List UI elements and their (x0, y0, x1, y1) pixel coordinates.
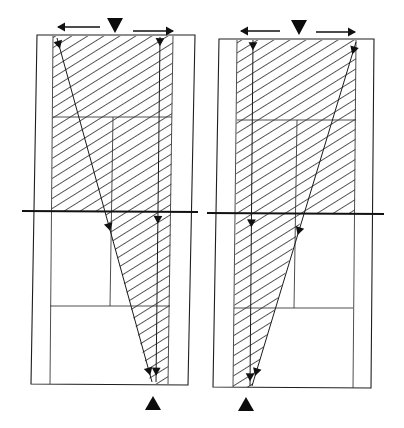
triangle-down-icon (107, 18, 123, 33)
triangle-down-icon (291, 20, 307, 35)
arrowhead-icon (348, 28, 356, 37)
triangle-up-icon (145, 396, 161, 410)
hatched-region (105, 211, 171, 384)
horizontal-divider-line (207, 213, 384, 214)
arrowhead-icon (57, 23, 65, 32)
diagram-figure (0, 0, 404, 428)
arrowhead-icon (296, 226, 304, 235)
arrowhead-icon (166, 27, 174, 36)
panel-right (207, 20, 384, 411)
diagram-panels (22, 18, 384, 411)
triangle-up-icon (238, 397, 254, 411)
panel-left (22, 18, 198, 410)
arrowhead-icon (240, 27, 248, 36)
hatched-region (233, 213, 303, 387)
horizontal-divider-line (22, 211, 198, 212)
